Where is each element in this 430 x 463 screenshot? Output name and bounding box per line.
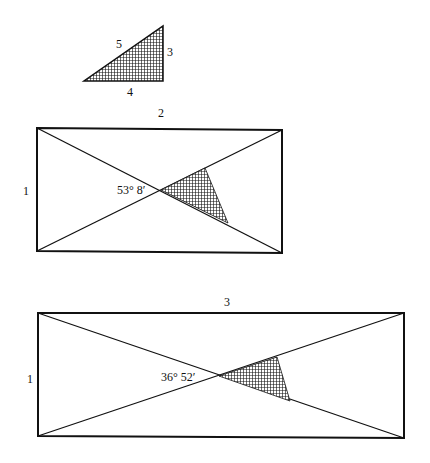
- diagonal-2: [37, 130, 282, 251]
- height-label: 1: [27, 372, 33, 386]
- vertical-side-label: 3: [167, 45, 173, 59]
- hypotenuse-label: 5: [116, 37, 122, 51]
- right-triangle-3-4-5: 5 3 4: [84, 26, 173, 99]
- shaded-angle-wedge: [161, 168, 228, 223]
- height-label: 1: [23, 184, 29, 198]
- rectangle-2x1: 2 1 53° 8′: [23, 106, 282, 253]
- triangle-shape: [84, 26, 163, 81]
- base-side-label: 4: [127, 85, 133, 99]
- angle-label: 53° 8′: [117, 183, 146, 197]
- width-label: 3: [224, 295, 230, 309]
- width-label: 2: [158, 106, 164, 120]
- rectangle-3x1: 3 1 36° 52′: [27, 295, 404, 438]
- diagram-canvas: 5 3 4 2 1 53° 8′ 3 1 36° 52′: [0, 0, 430, 463]
- angle-label: 36° 52′: [161, 370, 196, 384]
